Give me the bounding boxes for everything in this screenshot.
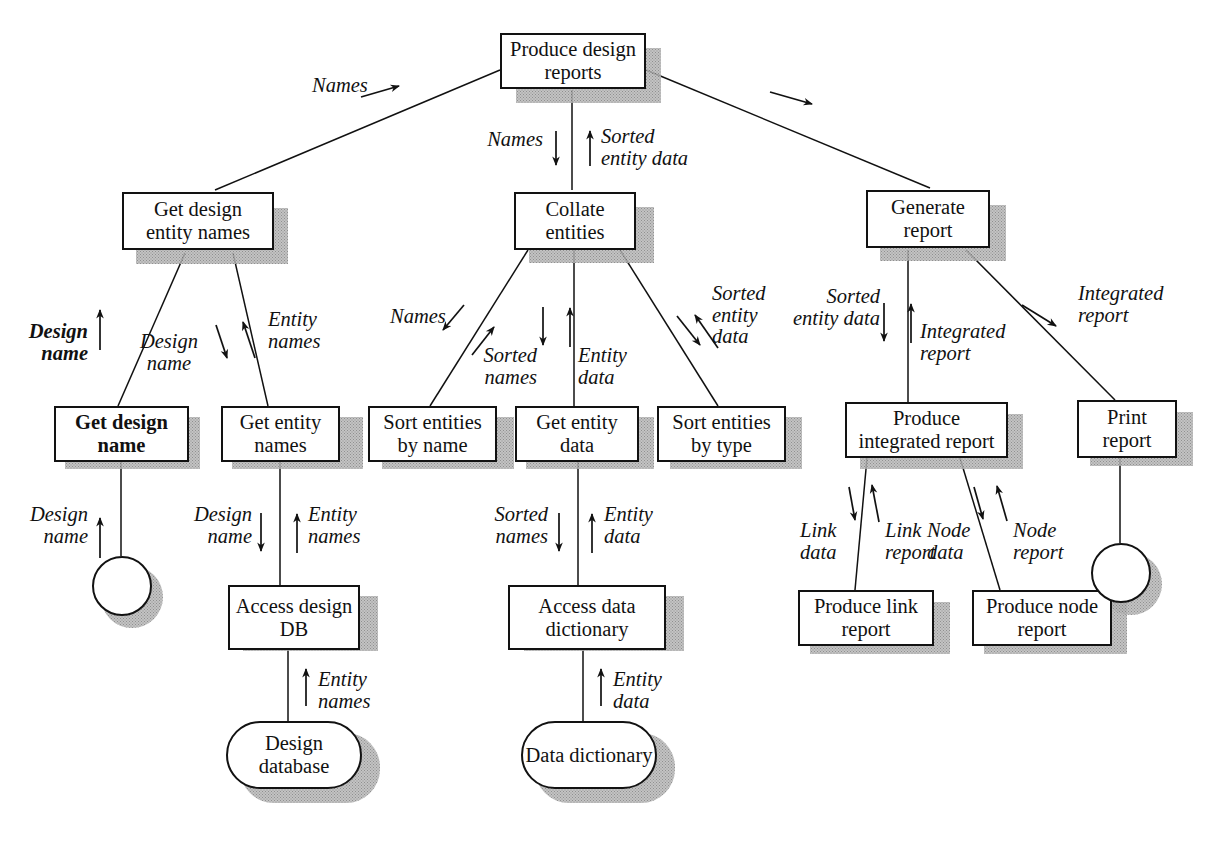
- node-get-entity-names[interactable]: Get entity names: [221, 406, 340, 462]
- node-label: Print report: [1079, 406, 1175, 452]
- flow-label-names-to-root: Names: [312, 75, 368, 97]
- flow-label-names-to-sort-by-name: Names: [390, 306, 446, 328]
- node-generate-report[interactable]: Generate report: [866, 190, 990, 248]
- node-label: Collate entities: [516, 198, 634, 244]
- datastore-label: Data dictionary: [526, 744, 653, 767]
- node-label: Get design name: [56, 411, 187, 457]
- flow-label-sorted-names-down: Sorted names: [444, 504, 548, 547]
- flow-label-entity-names-from-db: Entity names: [308, 504, 360, 547]
- flow-label-entity-names-up-left: Entity names: [268, 309, 320, 352]
- node-label: Access design DB: [230, 595, 358, 641]
- node-sort-entities-by-type[interactable]: Sort entities by type: [657, 406, 786, 462]
- terminator-circle-left[interactable]: [92, 556, 152, 616]
- node-label: Get design entity names: [124, 198, 272, 244]
- flow-label-link-data: Link data: [800, 520, 836, 563]
- node-produce-integrated-report[interactable]: Produce integrated report: [845, 402, 1008, 458]
- datastore-design-database[interactable]: Design database: [226, 721, 362, 789]
- flow-label-sorted-entity-data-down: Sorted entity data: [740, 286, 880, 329]
- node-produce-link-report[interactable]: Produce link report: [798, 590, 934, 646]
- node-access-data-dictionary[interactable]: Access data dictionary: [508, 585, 666, 650]
- flow-label-integrated-report-print: Integrated report: [1078, 283, 1163, 326]
- flow-label-entity-data-from-dict: Entity data: [604, 504, 653, 547]
- flow-label-design-name-bold: Design name: [0, 321, 88, 364]
- flow-label-sorted-entity-data-up: Sorted entity data: [601, 126, 688, 169]
- structure-chart-diagram: Produce design reports Get design entity…: [0, 0, 1215, 842]
- node-label: Produce integrated report: [847, 407, 1006, 453]
- datastore-label: Design database: [228, 732, 360, 778]
- flow-label-design-name-terminator: Design name: [0, 504, 88, 547]
- node-label: Access data dictionary: [510, 595, 664, 641]
- terminator-circle-right[interactable]: [1091, 543, 1151, 603]
- node-label: Produce link report: [800, 595, 932, 641]
- node-get-design-entity-names[interactable]: Get design entity names: [122, 192, 274, 250]
- node-label: Produce node report: [974, 595, 1110, 641]
- flow-label-integrated-report-up: Integrated report: [920, 321, 1005, 364]
- node-produce-node-report[interactable]: Produce node report: [972, 590, 1112, 646]
- flow-label-entity-data-up-collate: Entity data: [578, 345, 627, 388]
- node-label: Generate report: [868, 196, 988, 242]
- flow-label-design-name-down-left: Design name: [125, 331, 213, 374]
- node-produce-design-reports[interactable]: Produce design reports: [500, 33, 646, 89]
- flow-label-entity-names-db-up: Entity names: [318, 669, 370, 712]
- datastore-data-dictionary[interactable]: Data dictionary: [521, 721, 657, 789]
- node-get-entity-data[interactable]: Get entity data: [515, 406, 639, 462]
- flow-label-names-root-to-collate: Names: [413, 129, 543, 151]
- flow-label-node-report: Node report: [1013, 520, 1064, 563]
- flow-label-entity-data-dict-up: Entity data: [613, 669, 662, 712]
- node-label: Sort entities by name: [370, 411, 495, 457]
- flow-label-design-name-to-db: Design name: [148, 504, 252, 547]
- flow-label-node-data: Node data: [927, 520, 970, 563]
- node-label: Produce design reports: [502, 38, 644, 84]
- node-label: Get entity names: [223, 411, 338, 457]
- node-collate-entities[interactable]: Collate entities: [514, 192, 636, 250]
- node-label: Sort entities by type: [659, 411, 784, 457]
- node-access-design-db[interactable]: Access design DB: [228, 585, 360, 650]
- node-sort-entities-by-name[interactable]: Sort entities by name: [368, 406, 497, 462]
- node-get-design-name[interactable]: Get design name: [54, 406, 189, 462]
- node-label: Get entity data: [517, 411, 637, 457]
- flow-label-sorted-names-up: Sorted names: [437, 345, 537, 388]
- node-print-report[interactable]: Print report: [1077, 400, 1177, 458]
